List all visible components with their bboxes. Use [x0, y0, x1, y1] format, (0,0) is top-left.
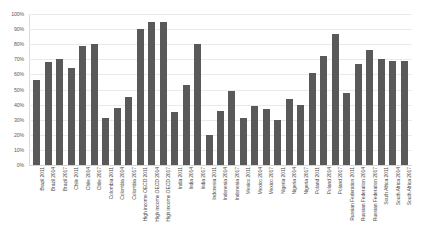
x-label-slot: South Africa 2014: [387, 167, 398, 229]
bar[interactable]: [309, 73, 316, 165]
y-axis-tick-label: 10%: [14, 147, 24, 153]
x-label-slot: Poland 2014: [318, 167, 329, 229]
bar[interactable]: [171, 112, 178, 165]
y-axis-tick-label: 0%: [17, 162, 24, 168]
bar-slot: [111, 14, 122, 165]
x-label-slot: Poland 2017: [330, 167, 341, 229]
x-label-slot: India 2017: [192, 167, 203, 229]
bar-slot: [353, 14, 364, 165]
bar-slot: [238, 14, 249, 165]
bar[interactable]: [160, 22, 167, 165]
bar[interactable]: [378, 59, 385, 165]
x-label-slot: High income OECD 2014: [146, 167, 157, 229]
bar-slot: [261, 14, 272, 165]
bar[interactable]: [228, 91, 235, 165]
bar[interactable]: [79, 46, 86, 165]
bar[interactable]: [56, 59, 63, 165]
bar-slot: [88, 14, 99, 165]
bar-slot: [295, 14, 306, 165]
bar[interactable]: [148, 22, 155, 165]
bar-slot: [307, 14, 318, 165]
x-label-slot: Chile 2014: [77, 167, 88, 229]
x-label-slot: Brazil 2014: [42, 167, 53, 229]
bar[interactable]: [68, 68, 75, 165]
plot-area: [29, 14, 412, 165]
bar-slot: [157, 14, 168, 165]
x-label-slot: Mexico 2017: [261, 167, 272, 229]
bar[interactable]: [332, 34, 339, 165]
bar[interactable]: [389, 61, 396, 165]
bar-slot: [226, 14, 237, 165]
bar[interactable]: [137, 29, 144, 165]
bar[interactable]: [263, 109, 270, 165]
bar[interactable]: [274, 120, 281, 165]
x-label-slot: Colombia 2014: [111, 167, 122, 229]
x-label-slot: Nigeria 2011: [272, 167, 283, 229]
bar[interactable]: [33, 80, 40, 165]
bar-slot: [376, 14, 387, 165]
x-label-slot: South Africa 2017: [399, 167, 410, 229]
y-axis-tick-label: 30%: [14, 117, 24, 123]
bar[interactable]: [240, 118, 247, 165]
bar[interactable]: [102, 118, 109, 165]
y-axis-tick-label: 100%: [11, 11, 24, 17]
bar-slot: [364, 14, 375, 165]
x-label-slot: South Africa 2011: [376, 167, 387, 229]
bar-slot: [31, 14, 42, 165]
bar[interactable]: [286, 99, 293, 165]
x-label-slot: High income OECD 2011: [134, 167, 145, 229]
x-label-slot: India 2014: [180, 167, 191, 229]
x-label-slot: Poland 2011: [307, 167, 318, 229]
bar[interactable]: [297, 105, 304, 165]
bar[interactable]: [91, 44, 98, 165]
bar-slot: [203, 14, 214, 165]
bar[interactable]: [45, 62, 52, 165]
bar-chart: 0%10%20%30%40%50%60%70%80%90%100% Brazil…: [0, 0, 421, 232]
bar[interactable]: [320, 56, 327, 165]
x-label-slot: Brazil 2011: [31, 167, 42, 229]
y-axis-tick-label: 50%: [14, 87, 24, 93]
bar-slot: [387, 14, 398, 165]
bar[interactable]: [206, 135, 213, 165]
x-label-slot: Mexico 2011: [238, 167, 249, 229]
bar-slot: [100, 14, 111, 165]
bar[interactable]: [125, 97, 132, 165]
bar[interactable]: [401, 61, 408, 165]
bar[interactable]: [343, 93, 350, 165]
x-label-slot: Brazil 2017: [54, 167, 65, 229]
bar-slot: [330, 14, 341, 165]
x-axis-tick-label: South Africa 2017: [406, 167, 412, 205]
bar-slot: [146, 14, 157, 165]
bar[interactable]: [183, 85, 190, 165]
bar[interactable]: [217, 111, 224, 165]
bar-slot: [272, 14, 283, 165]
x-axis-tick-labels: Brazil 2011Brazil 2014Brazil 2017Chile 2…: [29, 167, 412, 229]
bar-slot: [54, 14, 65, 165]
bar-slot: [180, 14, 191, 165]
bar-slot: [284, 14, 295, 165]
x-label-slot: Indonesia 2017: [226, 167, 237, 229]
bar-slot: [42, 14, 53, 165]
bar-slot: [77, 14, 88, 165]
bar-slot: [341, 14, 352, 165]
x-label-slot: Chile 2011: [65, 167, 76, 229]
x-label-slot: India 2011: [169, 167, 180, 229]
y-axis-tick-label: 60%: [14, 71, 24, 77]
x-label-slot: Nigeria 2014: [284, 167, 295, 229]
x-label-slot: Mexico 2014: [249, 167, 260, 229]
y-axis-tick-labels: 0%10%20%30%40%50%60%70%80%90%100%: [0, 14, 27, 165]
bar[interactable]: [366, 50, 373, 165]
bar-slot: [399, 14, 410, 165]
x-label-slot: Russian Federation 2014: [353, 167, 364, 229]
bar[interactable]: [114, 108, 121, 165]
bar[interactable]: [194, 44, 201, 165]
bar[interactable]: [355, 64, 362, 165]
x-label-slot: Russian Federation 2017: [364, 167, 375, 229]
bar-slot: [123, 14, 134, 165]
y-axis-tick-label: 70%: [14, 56, 24, 62]
x-label-slot: Indonesia 2014: [215, 167, 226, 229]
bar[interactable]: [251, 106, 258, 165]
x-label-slot: Indonesia 2011: [203, 167, 214, 229]
y-axis-tick-label: 40%: [14, 102, 24, 108]
x-label-slot: Chile 2017: [88, 167, 99, 229]
